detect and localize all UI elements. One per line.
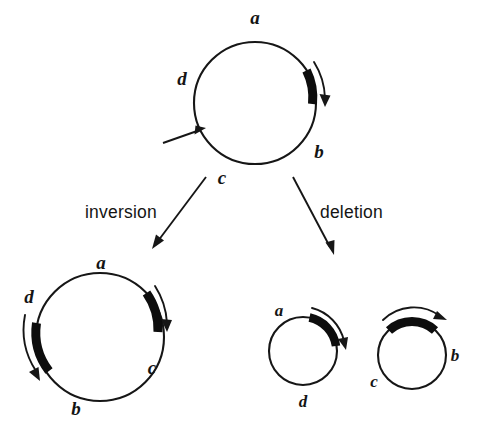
parent-circle-outline xyxy=(194,42,316,164)
process-inversion: inversion xyxy=(85,177,206,249)
deletion-product-circle-left: a d xyxy=(269,301,348,411)
parent-label-b: b xyxy=(314,141,324,162)
inversion-circle-outline xyxy=(36,273,164,401)
deletion-left-label-d: d xyxy=(299,392,308,411)
inversion-product-circle: a d b c xyxy=(24,252,172,419)
deletion-left-segment xyxy=(310,318,337,347)
breakpoint-pointer-head xyxy=(195,126,207,135)
parent-thick-segment xyxy=(307,71,313,105)
parent-label-d: d xyxy=(177,68,187,89)
deletion-right-segment xyxy=(389,322,435,331)
breakpoint-pointer-shaft xyxy=(163,130,200,143)
inversion-label-a: a xyxy=(96,252,106,273)
deletion-product-circle-right: b c xyxy=(370,307,459,391)
deletion-right-circle-outline xyxy=(378,321,446,389)
parent-label-c: c xyxy=(218,167,227,188)
inversion-label-c: c xyxy=(148,357,157,378)
process-deletion: deletion xyxy=(293,177,383,255)
rearrangement-diagram: a d b c inversion deletion xyxy=(0,0,485,423)
inversion-label-d: d xyxy=(24,286,34,307)
deletion-label: deletion xyxy=(320,202,383,222)
deletion-left-label-a: a xyxy=(275,301,284,320)
parent-direction-arrowhead xyxy=(320,94,331,107)
deletion-right-label-b: b xyxy=(451,346,460,365)
inversion-arrow-shaft xyxy=(158,177,206,241)
inversion-label-b: b xyxy=(71,398,81,419)
parent-label-a: a xyxy=(250,7,260,28)
inversion-segment-left xyxy=(36,323,49,371)
figure-root: a d b c inversion deletion xyxy=(0,0,485,423)
inversion-label: inversion xyxy=(85,202,157,222)
original-circular-genome: a d b c xyxy=(163,7,331,188)
deletion-right-label-c: c xyxy=(370,372,378,391)
deletion-arrow-head xyxy=(326,240,335,255)
inversion-segment-upper-right xyxy=(147,293,159,332)
